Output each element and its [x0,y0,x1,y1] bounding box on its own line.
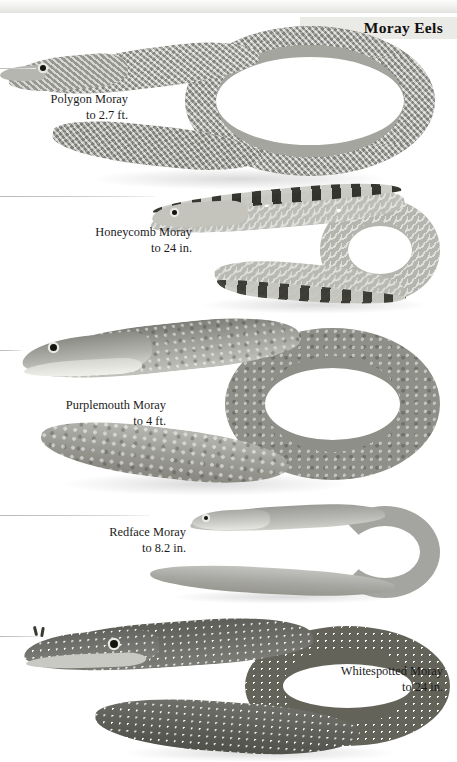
leader-line-stroke [0,515,150,516]
leader-line-purplemouth-moray [0,350,22,351]
nostril-tubes [34,626,48,636]
leader-line-polygon-moray [0,68,36,69]
leader-line-honeycomb-moray [0,196,155,197]
caption-honeycomb-moray: Honeycomb Moray to 24 in. [52,225,192,257]
leader-line-stroke [0,196,155,197]
species-name: Whitespotted Moray [283,664,443,680]
leader-line-whitespotted-moray [0,636,40,637]
species-size: to 24 in. [283,680,443,696]
species-size: to 24 in. [52,241,192,257]
leader-line-stroke [0,350,22,351]
leader-line-stroke [0,636,40,637]
head [192,509,271,532]
species-name: Purplemouth Moray [6,398,166,414]
eye [110,640,118,648]
species-name: Redface Moray [58,525,186,541]
eye [204,516,208,520]
caption-polygon-moray: Polygon Moray to 2.7 ft. [8,92,128,124]
caption-redface-moray: Redface Moray to 8.2 in. [58,525,186,557]
species-size: to 2.7 ft. [8,108,128,124]
species-name: Polygon Moray [8,92,128,108]
caption-purplemouth-moray: Purplemouth Moray to 4 ft. [6,398,166,430]
species-name: Honeycomb Moray [52,225,192,241]
species-size: to 4 ft. [6,414,166,430]
leader-line-stroke [0,68,36,69]
page-header-band [0,0,457,13]
caption-whitespotted-moray: Whitespotted Moray to 24 in. [283,664,443,696]
species-size: to 8.2 in. [58,541,186,557]
eye [172,210,177,215]
leader-line-redface-moray [0,515,150,516]
eye [40,65,46,71]
eye [50,344,57,351]
